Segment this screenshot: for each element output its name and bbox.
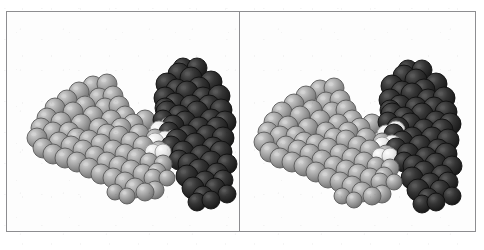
atom-specular-highlight xyxy=(222,189,227,193)
atom-sphere-layer xyxy=(254,60,462,213)
atom-specular-highlight xyxy=(352,168,357,172)
atom-specular-highlight xyxy=(346,114,351,118)
atom-specular-highlight xyxy=(276,106,281,110)
atom-specular-highlight xyxy=(55,116,60,120)
atom-specular-highlight xyxy=(322,142,327,146)
atom-specular-highlight xyxy=(37,142,42,146)
atom-specular-highlight xyxy=(205,156,211,160)
atom-specular-highlight xyxy=(171,84,177,88)
atom-specular-highlight xyxy=(107,90,112,94)
atom-specular-highlight xyxy=(334,148,339,152)
atom-specular-highlight xyxy=(105,114,110,118)
atom-specular-highlight xyxy=(93,122,98,126)
atom-specular-highlight xyxy=(440,148,446,152)
molecular-model-left xyxy=(7,12,239,231)
atom-specular-highlight xyxy=(217,132,223,136)
atom-specular-highlight xyxy=(334,176,339,180)
atom-specular-highlight xyxy=(434,184,439,188)
atom-specular-highlight xyxy=(163,126,168,130)
atom-specular-highlight xyxy=(206,195,211,199)
atom-specular-highlight xyxy=(410,74,416,78)
atom-specular-highlight xyxy=(375,151,379,154)
atom-specular-highlight xyxy=(385,151,389,154)
atom-specular-highlight xyxy=(95,138,100,142)
atom-specular-highlight xyxy=(87,80,92,84)
atom-specular-highlight xyxy=(258,136,263,140)
atom-specular-highlight xyxy=(113,160,118,164)
atom-specular-highlight xyxy=(185,100,191,104)
atom-specular-highlight xyxy=(113,130,118,134)
atom-specular-highlight xyxy=(61,94,66,98)
atom-specular-highlight xyxy=(388,128,393,132)
atom-specular-highlight xyxy=(49,102,54,106)
atom-specular-highlight xyxy=(165,140,170,144)
atom-specular-highlight xyxy=(268,116,273,120)
atom-specular-highlight xyxy=(77,144,82,148)
stereo-pair-frame xyxy=(6,11,476,232)
atom-specular-highlight xyxy=(431,197,436,201)
atom-specular-highlight xyxy=(356,186,361,190)
atom-sphere xyxy=(346,192,362,208)
atom-specular-highlight xyxy=(432,144,438,148)
atom-specular-highlight xyxy=(65,140,70,144)
atom-specular-highlight xyxy=(158,159,163,163)
atom-specular-highlight xyxy=(201,130,207,134)
atom-specular-highlight xyxy=(358,156,363,160)
atom-specular-highlight xyxy=(360,132,365,136)
atom-specular-highlight xyxy=(320,126,325,130)
atom-specular-highlight xyxy=(101,156,106,160)
atom-specular-highlight xyxy=(67,106,72,110)
atom-specular-highlight xyxy=(386,108,392,112)
atom-specular-highlight xyxy=(447,191,452,195)
atom-specular-highlight xyxy=(280,140,285,144)
atom-specular-highlight xyxy=(173,68,179,72)
atom-specular-highlight xyxy=(262,126,267,130)
atom-specular-highlight xyxy=(119,148,124,152)
atom-specular-highlight xyxy=(137,168,142,172)
atom-sphere xyxy=(218,185,236,203)
atom-specular-highlight xyxy=(162,173,166,176)
atom-specular-highlight xyxy=(207,142,213,146)
atom-specular-highlight xyxy=(337,191,341,194)
atom-specular-highlight xyxy=(215,104,221,108)
atom-specular-highlight xyxy=(173,110,179,114)
atom-specular-highlight xyxy=(148,173,153,177)
atom-specular-highlight xyxy=(314,114,319,118)
atom-specular-highlight xyxy=(75,118,80,122)
atom-specular-highlight xyxy=(53,136,58,140)
atom-specular-highlight xyxy=(430,158,436,162)
atom-specular-highlight xyxy=(290,130,295,134)
atom-specular-highlight xyxy=(417,199,422,203)
atom-specular-highlight xyxy=(418,124,424,128)
atom-specular-highlight xyxy=(326,106,331,110)
atom-specular-highlight xyxy=(398,112,404,116)
atom-specular-highlight xyxy=(79,100,84,104)
atom-specular-highlight xyxy=(304,148,309,152)
atom-specular-highlight xyxy=(310,138,315,142)
atom-specular-highlight xyxy=(328,82,333,86)
atom-specular-highlight xyxy=(148,147,152,150)
atom-specular-highlight xyxy=(110,187,114,190)
atom-specular-highlight xyxy=(161,106,167,110)
atom-specular-highlight xyxy=(154,125,159,129)
atom-specular-highlight xyxy=(402,148,408,152)
atom-specular-highlight xyxy=(274,152,279,156)
atom-specular-highlight xyxy=(158,147,162,150)
atom-specular-highlight xyxy=(426,132,432,136)
atom-specular-highlight xyxy=(192,197,197,201)
atom-specular-highlight xyxy=(414,140,420,144)
atom-specular-highlight xyxy=(294,110,299,114)
atom-specular-highlight xyxy=(288,98,293,102)
atom-specular-highlight xyxy=(389,177,393,180)
atom-sphere-layer xyxy=(27,58,237,211)
atom-specular-highlight xyxy=(137,140,142,144)
atom-specular-highlight xyxy=(398,156,403,160)
atom-specular-highlight xyxy=(371,161,376,165)
atom-specular-highlight xyxy=(177,146,183,150)
atom-specular-highlight xyxy=(83,162,88,166)
atom-specular-highlight xyxy=(87,110,92,114)
atom-specular-highlight xyxy=(47,148,52,152)
atom-specular-highlight xyxy=(410,102,416,106)
atom-sphere xyxy=(363,187,381,205)
atom-specular-highlight xyxy=(83,134,88,138)
